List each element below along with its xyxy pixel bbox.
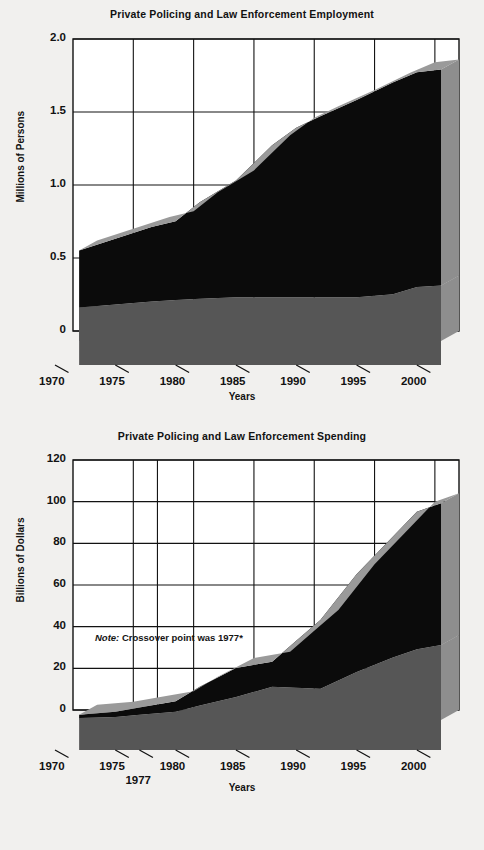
chart-employment: Private Policing and Law Enforcement Emp…: [0, 0, 484, 420]
x-tick-label: 1995: [341, 760, 367, 772]
y-tick-label: 100: [47, 494, 66, 506]
y-tick-label: 1.0: [50, 177, 66, 189]
chart-spending: Private Policing and Law Enforcement Spe…: [0, 420, 484, 850]
y-axis-title: Millions of Persons: [15, 163, 26, 203]
x-tick-label: 1980: [160, 375, 186, 387]
x-tick-label: 2000: [401, 760, 427, 772]
y-tick-label: 40: [53, 619, 66, 631]
y-tick-label: 120: [47, 452, 66, 464]
x-tick-label: 1980: [160, 760, 186, 772]
figure-page: Private Policing and Law Enforcement Emp…: [0, 0, 484, 850]
x-axis-title: Years: [0, 782, 484, 793]
x-tick-label: 1990: [280, 760, 306, 772]
y-tick-label: 60: [53, 577, 66, 589]
chart-note: Note: Crossover point was 1977*: [95, 632, 243, 643]
y-tick-label: 80: [53, 535, 66, 547]
x-tick-label: 2000: [401, 375, 427, 387]
x-tick-label: 1985: [220, 760, 246, 772]
employment-plot: [0, 0, 484, 420]
y-tick-label: 0: [60, 702, 66, 714]
y-tick-label: 20: [53, 660, 66, 672]
y-tick-label: 0: [60, 323, 66, 335]
x-axis-title: Years: [0, 391, 484, 402]
x-tick-label: 1975: [99, 375, 125, 387]
y-tick-label: 0.5: [50, 250, 66, 262]
x-tick-label: 1995: [341, 375, 367, 387]
chart-note-prefix: Note:: [95, 632, 119, 643]
y-tick-label: 2.0: [50, 31, 66, 43]
x-tick-label: 1985: [220, 375, 246, 387]
y-axis-title: Billions of Dollars: [15, 563, 26, 603]
x-tick-label: 1970: [39, 760, 65, 772]
x-tick-label: 1990: [280, 375, 306, 387]
y-tick-label: 1.5: [50, 104, 66, 116]
x-tick-label: 1975: [99, 760, 125, 772]
x-tick-label: 1970: [39, 375, 65, 387]
